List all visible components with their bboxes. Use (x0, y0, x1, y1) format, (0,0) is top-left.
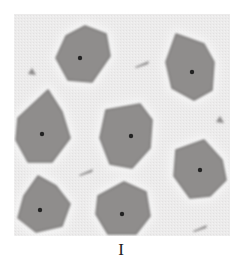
cell-nucleus (190, 70, 194, 74)
cell-nucleus (120, 212, 124, 216)
micrograph-image (14, 14, 230, 236)
cell-nucleus (40, 132, 44, 136)
micrograph-canvas (14, 14, 230, 236)
cell-nucleus (38, 208, 42, 212)
cell-nucleus (198, 168, 202, 172)
cell-nucleus (129, 134, 133, 138)
cell-nucleus (78, 56, 82, 60)
figure-caption: I (0, 240, 242, 260)
